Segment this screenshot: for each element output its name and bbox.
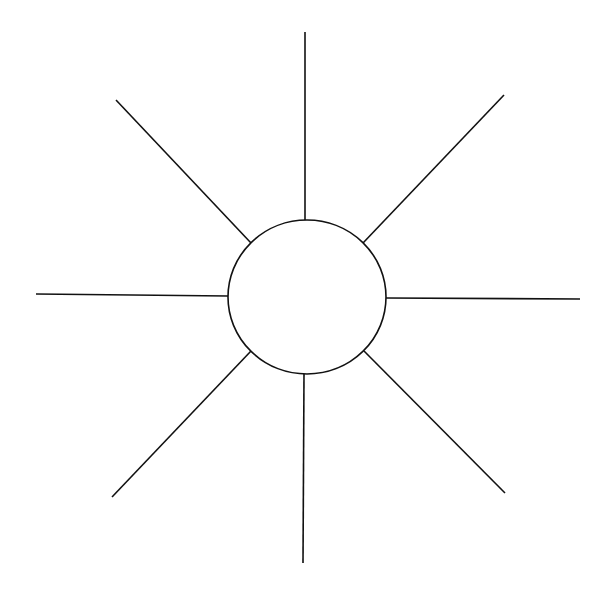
spoke-bottom-right	[364, 351, 505, 493]
center-circle	[228, 220, 386, 374]
spokes-group	[36, 32, 580, 563]
spoke-left	[36, 294, 228, 296]
spoke-bottom	[303, 374, 304, 563]
spoke-bottom-left	[112, 351, 251, 497]
spoke-right	[386, 298, 580, 299]
spoke-top-right	[363, 95, 504, 243]
spoke-top-left	[116, 100, 251, 243]
spider-diagram	[0, 0, 611, 598]
